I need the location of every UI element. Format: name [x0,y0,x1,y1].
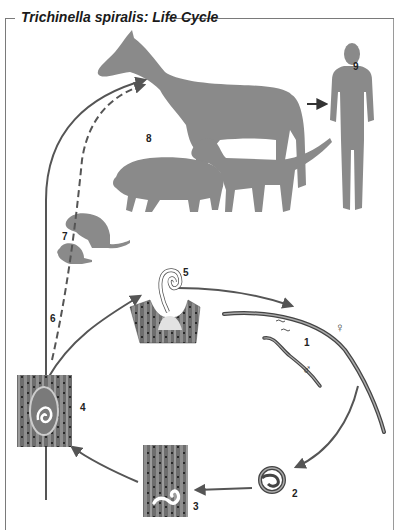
stage-5-mucosa [130,270,200,343]
stage-4-label: 4 [80,402,86,413]
stage-6-label: 6 [50,313,56,324]
arrow-to-stage-1 [178,288,292,306]
arrow-to-stage-4 [72,447,138,482]
stage-9-label: 9 [353,61,359,72]
stage-7-label: 7 [62,231,68,242]
pig-silhouette [113,157,224,212]
arrow-to-stage-2 [296,386,358,467]
stage-1-label: 1 [304,337,310,348]
stage-2-label: 2 [292,488,298,499]
life-cycle-diagram [0,0,400,530]
stage-5-label: 5 [183,267,189,278]
male-symbol: ♂ [302,362,312,377]
stage-4-encysted-larva [17,375,72,447]
stage-8-label: 8 [146,133,152,144]
female-symbol: ♀ [335,320,345,335]
human-silhouette [330,43,374,210]
arrow-to-stage-5 [48,296,140,378]
arrow-to-stage-3 [196,488,252,490]
stage-3-muscle-larva [143,445,188,517]
stage-3-label: 3 [193,501,199,512]
stage-2-coiled-larva [260,468,284,492]
mouse-silhouette [57,243,92,264]
